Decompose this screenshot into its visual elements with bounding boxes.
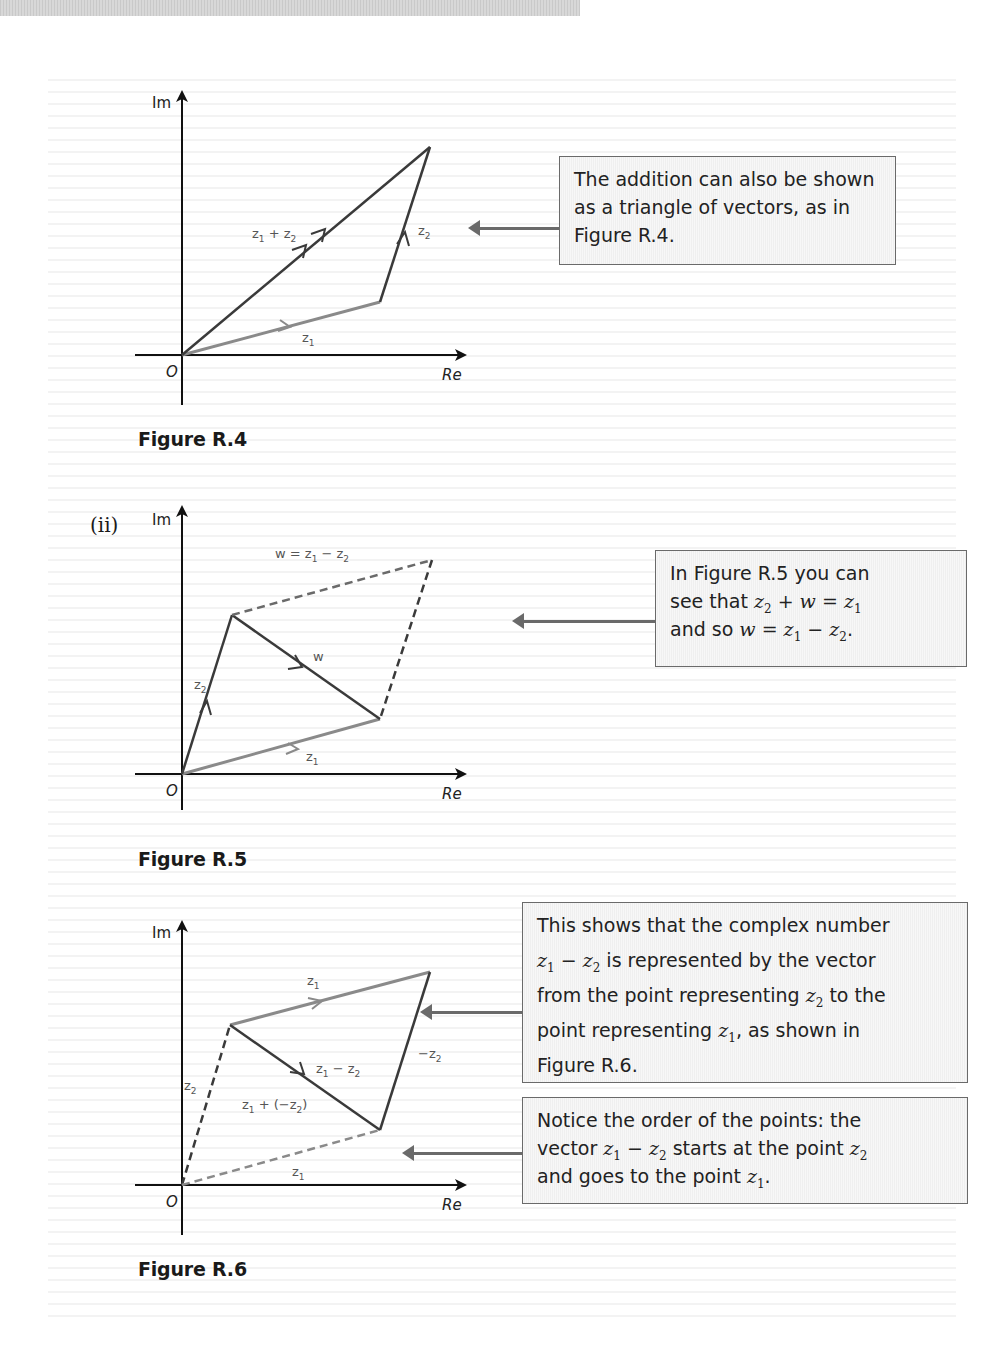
callout-addition-triangle: The addition can also be shown as a tria… xyxy=(559,156,896,265)
origin-label: O xyxy=(166,1193,178,1211)
callout-pointer-arrow-icon xyxy=(412,1152,523,1155)
callout-order-of-points: Notice the order of the points: the vect… xyxy=(522,1097,968,1204)
figure-caption-r6: Figure R.6 xyxy=(138,1258,247,1280)
vector-z1 xyxy=(182,719,380,774)
label-minus-z2: −z2 xyxy=(418,1046,441,1064)
re-axis-label: Re xyxy=(442,785,462,803)
label-z1-plus-z2: z1 + z2 xyxy=(252,226,296,244)
figure-r6: Im O Re z2 z1 z1 −z2 z1 − z2 z1 + (−z2) xyxy=(130,910,490,1240)
dashed-side-right xyxy=(380,560,432,719)
callout-pointer-arrow-icon xyxy=(430,1011,523,1014)
im-axis-label: Im xyxy=(152,94,171,112)
header-strip xyxy=(0,0,580,16)
direction-arrow-icon xyxy=(278,320,290,331)
callout-pointer-arrow-icon xyxy=(478,227,560,230)
figure-r5: Im O Re z1 z2 w w = z1 − z2 xyxy=(130,515,490,815)
label-z1-top: z1 xyxy=(307,973,320,991)
im-axis-label: Im xyxy=(152,511,171,529)
label-z1: z1 xyxy=(302,330,315,348)
label-z1-dashed: z1 xyxy=(292,1164,305,1182)
dashed-side-top xyxy=(232,560,432,615)
dashed-vector-z1 xyxy=(182,1130,380,1185)
label-z2: z2 xyxy=(194,677,207,695)
vector-z2 xyxy=(182,615,232,774)
label-z2: z2 xyxy=(418,223,431,241)
callout-complex-difference: This shows that the complex number z1 − … xyxy=(522,902,968,1083)
callout-z2-plus-w: In Figure R.5 you can see that z2 + w = … xyxy=(655,550,967,667)
figure-caption-r5: Figure R.5 xyxy=(138,848,247,870)
origin-label: O xyxy=(166,363,178,381)
figure-caption-r4: Figure R.4 xyxy=(138,428,247,450)
re-axis-label: Re xyxy=(442,366,462,384)
vector-z1-plus-z2 xyxy=(182,147,430,355)
re-axis-label: Re xyxy=(442,1196,462,1214)
vector-w xyxy=(232,615,380,719)
callout-pointer-arrow-icon xyxy=(522,620,656,623)
label-z1: z1 xyxy=(306,749,319,767)
figure-r4: Im O Re z1 z2 z1 + z2 xyxy=(130,80,490,410)
vector-z1-top xyxy=(230,972,430,1025)
label-z1-minus-z2: z1 − z2 xyxy=(316,1061,360,1079)
label-w: w xyxy=(313,649,324,664)
dashed-vector-z2 xyxy=(182,1025,230,1185)
label-z1-plus-minus-z2: z1 + (−z2) xyxy=(242,1097,307,1115)
im-axis-label: Im xyxy=(152,924,171,942)
part-label-ii: (ii) xyxy=(90,513,118,537)
label-z2-dashed: z2 xyxy=(184,1078,197,1096)
origin-label: O xyxy=(166,782,178,800)
label-w-equals-z1-minus-z2: w = z1 − z2 xyxy=(275,546,349,564)
